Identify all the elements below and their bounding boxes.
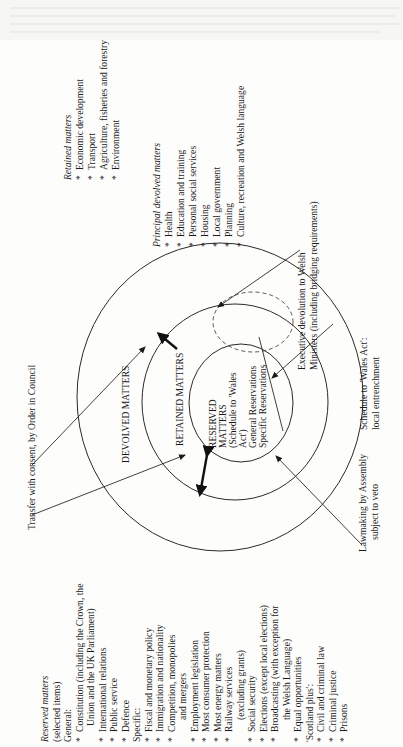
devolution-diagram: DEVOLVED MATTERS RETAINED MATTERS RESERV… (0, 0, 403, 747)
svg-text:*: * (315, 737, 326, 742)
svg-text:*: * (110, 175, 121, 180)
svg-text:Education and training: Education and training (175, 149, 186, 237)
svg-text:Union and the UK Parliament): Union and the UK Parliament) (85, 608, 97, 726)
transfer-annotation: Transfer with consent, by Order in Counc… (26, 365, 37, 530)
svg-text:Principal devolved matters: Principal devolved matters (151, 143, 162, 248)
svg-text:International relations: International relations (97, 647, 108, 732)
principal-devolved-matters-list: Principal devolved matters *Health *Educ… (151, 86, 246, 248)
svg-text:Most consumer protection: Most consumer protection (200, 631, 211, 732)
svg-text:Transport: Transport (86, 133, 97, 170)
document-page: DEVOLVED MATTERS RETAINED MATTERS RESERV… (0, 0, 403, 747)
svg-text:Health: Health (163, 211, 174, 237)
svg-text:Ministers (including bridging: Ministers (including bridging requiremen… (308, 201, 320, 370)
svg-text:Competition, monopolies: Competition, monopolies (166, 634, 177, 732)
svg-text:Agriculture, fisheries and for: Agriculture, fisheries and forestry (98, 40, 109, 170)
svg-text:*: * (269, 737, 280, 742)
svg-text:and mergers: and mergers (177, 673, 188, 720)
svg-text:*: * (292, 737, 303, 742)
svg-text:General:: General: (62, 709, 73, 742)
svg-text:Fiscal and monetary policy: Fiscal and monetary policy (143, 628, 154, 732)
svg-text:*: * (163, 242, 174, 247)
svg-text:*: * (108, 737, 119, 742)
svg-text:subject to veto: subject to veto (369, 484, 380, 540)
svg-text:Social security: Social security (246, 675, 257, 732)
svg-text:*: * (98, 175, 109, 180)
schedule-annotation: Schedule to 'Wales Act': local entrenchm… (358, 338, 381, 430)
svg-text:Defence: Defence (120, 700, 131, 732)
svg-text:(selected items): (selected items) (51, 682, 63, 742)
svg-text:Housing: Housing (199, 204, 210, 237)
svg-text:Broadcasting (with exception f: Broadcasting (with exception for (269, 605, 281, 732)
svg-text:Immigration and nationality: Immigration and nationality (154, 624, 165, 732)
bold-arrow-bidirectional (200, 455, 207, 494)
reserved-matters-list: Reserved matters (selected items) Genera… (39, 584, 349, 743)
transfer-arrow-lower (32, 455, 185, 515)
svg-text:*: * (154, 737, 165, 742)
svg-text:Most energy matters: Most energy matters (212, 653, 223, 732)
svg-text:(excluding grants): (excluding grants) (235, 650, 247, 720)
svg-text:*: * (143, 737, 154, 742)
executive-annotation: Executive devolution to Welsh Ministers … (296, 201, 320, 370)
devolved-matters-label: DEVOLVED MATTERS (120, 366, 131, 463)
svg-text:*: * (74, 737, 85, 742)
svg-text:Prisons: Prisons (338, 703, 349, 732)
svg-text:*: * (246, 737, 257, 742)
svg-text:*: * (212, 737, 223, 742)
svg-text:Elections (except local electi: Elections (except local elections) (258, 605, 270, 732)
svg-text:Schedule to 'Wales Act':: Schedule to 'Wales Act': (358, 338, 369, 430)
svg-text:*: * (223, 242, 234, 247)
svg-text:Constitution (including the Cr: Constitution (including the Crown, the (74, 584, 86, 732)
svg-text:*: * (175, 242, 186, 247)
svg-text:Equal opportunities: Equal opportunities (292, 656, 303, 732)
svg-text:Executive devolution to Welsh: Executive devolution to Welsh (296, 252, 307, 370)
svg-text:Economic development: Economic development (74, 79, 85, 170)
svg-text:Employment legislation: Employment legislation (189, 640, 200, 732)
lawmaking-annotation: Lawmaking by Assembly subject to veto (357, 454, 380, 552)
svg-text:Local government: Local government (211, 167, 222, 237)
svg-text:*: * (97, 737, 108, 742)
svg-text:Culture, recreation and Welsh: Culture, recreation and Welsh language (235, 86, 246, 237)
svg-text:Planning: Planning (223, 203, 234, 237)
svg-text:Personal social services: Personal social services (187, 146, 198, 237)
svg-text:*: * (211, 242, 222, 247)
svg-text:*: * (200, 737, 211, 742)
svg-text:Railway services: Railway services (223, 666, 234, 732)
svg-text:Public service: Public service (108, 678, 119, 732)
retained-matters-list: Retained matters *Economic development *… (62, 40, 121, 181)
svg-text:*: * (258, 737, 269, 742)
svg-text:*: * (199, 242, 210, 247)
svg-text:*: * (327, 737, 338, 742)
svg-text:Reserved matters: Reserved matters (39, 675, 50, 743)
svg-text:local entrenchment: local entrenchment (370, 356, 381, 430)
svg-text:*: * (223, 737, 234, 742)
executive-dashed-circle (213, 292, 293, 352)
svg-text:*: * (235, 242, 246, 247)
svg-text:Specific Reservations: Specific Reservations (257, 364, 268, 448)
svg-text:Environment: Environment (110, 120, 121, 170)
svg-text:*: * (120, 737, 131, 742)
svg-text:Lawmaking by Assembly: Lawmaking by Assembly (357, 454, 368, 552)
bleed-through-text (0, 0, 403, 40)
svg-text:*: * (166, 737, 177, 742)
svg-text:*: * (74, 175, 85, 180)
svg-text:*: * (189, 737, 200, 742)
svg-text:Civil and criminal law: Civil and criminal law (315, 646, 326, 732)
svg-text:the Welsh Language): the Welsh Language) (281, 639, 293, 720)
svg-text:*: * (187, 242, 198, 247)
svg-text:*: * (86, 175, 97, 180)
executive-arrow (218, 250, 300, 307)
retained-matters-label: RETAINED MATTERS (174, 353, 185, 446)
svg-text:Retained matters: Retained matters (62, 114, 73, 181)
svg-text:'Scotland plus':: 'Scotland plus': (304, 684, 315, 742)
svg-text:Specific:: Specific: (131, 708, 142, 742)
svg-text:*: * (338, 737, 349, 742)
svg-text:Criminal justice: Criminal justice (327, 670, 338, 732)
reserved-matters-label: RESERVED MATTERS (Schedule to 'Wales Act… (207, 364, 268, 448)
